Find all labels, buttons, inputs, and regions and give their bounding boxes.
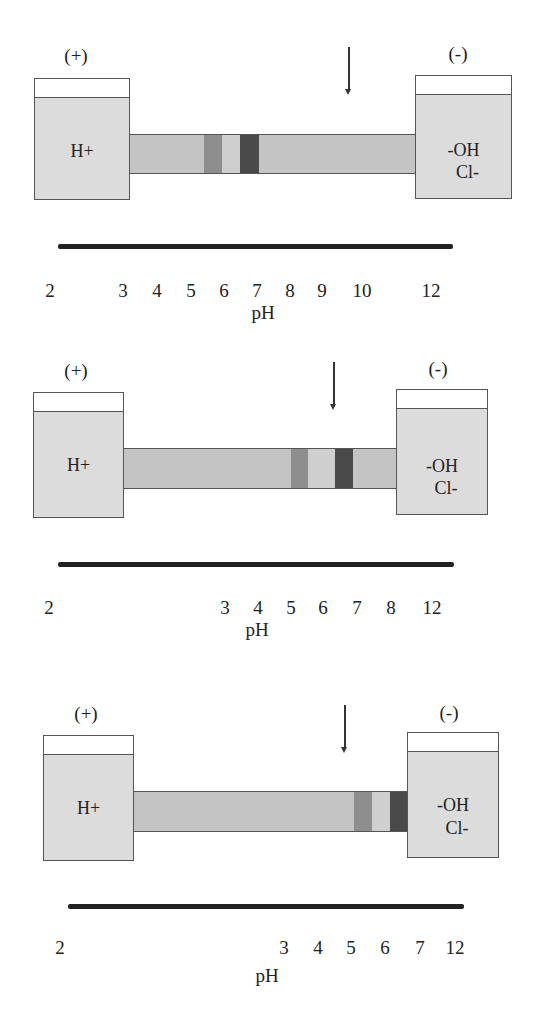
ph-tick: 12 [446,938,465,958]
gel-tube [133,791,409,832]
band-medium [291,449,308,488]
reservoir-lid [408,733,498,752]
ph-tick: 6 [318,598,328,618]
band-dark [335,449,353,488]
anode-reservoir: H+ [33,392,124,518]
cathode-ions-oh: -OH [416,140,511,161]
cathode-reservoir: -OH Cl- [396,389,488,515]
anode-ions: H+ [35,141,129,162]
ph-axis-title: pH [245,620,268,640]
ph-tick: 8 [285,281,295,301]
ph-tick: 12 [423,598,442,618]
ph-axis-title: pH [251,303,274,323]
anode-ions: H+ [44,798,133,819]
ph-tick: 6 [219,281,229,301]
ph-tick: 5 [186,281,196,301]
ph-axis-title: pH [255,966,278,986]
gel-tube [123,448,397,489]
cathode-ions-oh: -OH [408,795,498,816]
ph-axis-line [58,244,453,249]
anode-reservoir: H+ [34,78,130,200]
ph-axis-line [58,562,454,567]
band-light [372,792,390,831]
band-dark [390,792,408,831]
ph-tick: 8 [386,598,396,618]
cathode-ions-cl: Cl- [416,818,498,839]
cathode-label: (-) [438,44,478,64]
ph-tick: 7 [415,938,425,958]
reservoir-lid [44,736,133,755]
cathode-ions-cl: Cl- [424,162,511,183]
ph-tick: 10 [353,281,372,301]
ph-tick: 2 [45,281,55,301]
ph-tick: 2 [44,598,54,618]
anode-reservoir: H+ [43,735,134,861]
ph-tick: 4 [253,598,263,618]
panel-1: (+) (-) H+ -OH Cl- 2 3 4 5 6 7 8 9 10 12… [0,0,550,320]
cathode-label: (-) [429,703,469,723]
anode-ions: H+ [34,455,123,476]
ph-tick: 3 [279,938,289,958]
panel-3: (+) (-) H+ -OH Cl- 2 3 4 5 6 7 12 pH [0,0,550,1]
anode-label: (+) [56,46,96,66]
cathode-ions-cl: Cl- [405,478,487,499]
reservoir-lid [35,79,129,98]
band-medium [204,135,222,173]
reservoir-lid [416,76,511,95]
band-light [222,135,240,173]
reservoir-lid [34,393,123,412]
anode-label: (+) [56,361,96,381]
band-medium [354,792,372,831]
down-arrow-icon [333,362,335,405]
ph-tick: 4 [152,281,162,301]
ph-tick: 3 [220,598,230,618]
ph-tick: 5 [286,598,296,618]
ph-tick: 12 [422,281,441,301]
ph-axis-line [68,904,464,909]
reservoir-lid [397,390,487,409]
cathode-ions-oh: -OH [397,456,487,477]
ph-tick: 9 [317,281,327,301]
cathode-reservoir: -OH Cl- [407,732,499,858]
down-arrow-icon [344,705,346,748]
anode-label: (+) [66,704,106,724]
ph-tick: 7 [252,281,262,301]
ph-tick: 4 [313,938,323,958]
ph-tick: 6 [380,938,390,958]
cathode-reservoir: -OH Cl- [415,75,512,199]
ph-tick: 5 [346,938,356,958]
band-dark [240,135,259,173]
band-light [308,449,335,488]
cathode-label: (-) [418,359,458,379]
ph-tick: 2 [55,938,65,958]
ph-tick: 3 [118,281,128,301]
ph-tick: 7 [352,598,362,618]
gel-tube [129,134,417,174]
down-arrow-icon [348,47,350,90]
